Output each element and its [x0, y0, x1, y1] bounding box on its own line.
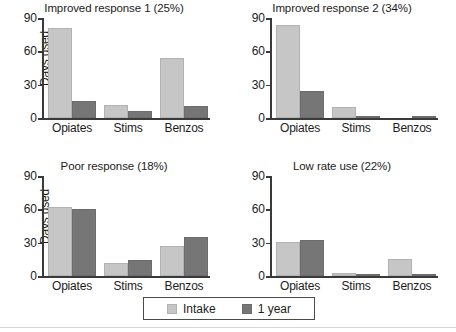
- bar-one-year: [184, 106, 208, 118]
- bar-intake: [160, 246, 184, 276]
- x-category-label: Opiates: [44, 279, 100, 293]
- x-category-label: Stims: [328, 121, 384, 135]
- bar-one-year: [356, 116, 380, 118]
- bar-one-year: [128, 260, 152, 276]
- bar-intake: [160, 58, 184, 118]
- y-tick-label: 30: [252, 237, 265, 249]
- bar-group: Stims: [328, 18, 384, 118]
- y-tick-mark: [38, 118, 42, 120]
- bar-group: Opiates: [44, 18, 100, 118]
- plot-area: Days used 0306090 OpiatesStimsBenzos: [42, 176, 210, 276]
- x-category-label: Opiates: [272, 121, 328, 135]
- x-category-label: Benzos: [156, 279, 212, 293]
- y-tick-mark: [38, 85, 42, 87]
- y-tick-label: 0: [30, 112, 37, 124]
- bar-intake: [276, 242, 300, 276]
- bar-intake: [388, 259, 412, 276]
- x-category-label: Stims: [100, 121, 156, 135]
- bar-group: Opiates: [44, 176, 100, 276]
- x-axis-line: [42, 276, 210, 278]
- y-tick-label: 0: [258, 270, 265, 282]
- x-category-label: Stims: [100, 279, 156, 293]
- y-tick-mark: [266, 176, 270, 178]
- y-tick-mark: [266, 276, 270, 278]
- bar-intake: [332, 273, 356, 276]
- plot-area: Days used 0306090 OpiatesStimsBenzos: [42, 18, 210, 118]
- legend-entry-intake: Intake: [167, 302, 216, 316]
- panel-improved-response-2: Improved response 2 (34%) 0306090 Opiate…: [228, 0, 456, 148]
- legend-swatch-intake-icon: [167, 304, 177, 314]
- y-tick-mark: [266, 85, 270, 87]
- chart-legend: Intake 1 year: [143, 297, 315, 320]
- bar-intake: [48, 28, 72, 118]
- x-axis-line: [42, 118, 210, 120]
- y-tick-mark: [38, 176, 42, 178]
- y-tick-mark: [266, 51, 270, 53]
- y-tick-label: 60: [24, 203, 37, 215]
- panel-improved-response-1: Improved response 1 (25%) Days used 0306…: [0, 0, 228, 148]
- legend-label-intake: Intake: [183, 302, 216, 316]
- bar-one-year: [412, 116, 436, 118]
- y-tick-label: 0: [30, 270, 37, 282]
- bar-intake: [276, 25, 300, 118]
- y-tick-label: 0: [258, 112, 265, 124]
- x-category-label: Benzos: [384, 279, 440, 293]
- y-tick-mark: [266, 18, 270, 20]
- x-axis-line: [270, 276, 438, 278]
- bar-one-year: [72, 101, 96, 118]
- bar-group: Opiates: [272, 18, 328, 118]
- y-tick-label: 30: [252, 79, 265, 91]
- bar-one-year: [300, 91, 324, 118]
- bar-intake: [332, 107, 356, 118]
- y-tick-mark: [266, 118, 270, 120]
- legend-label-one-year: 1 year: [258, 302, 291, 316]
- plot-area: 0306090 OpiatesStimsBenzos: [270, 176, 438, 276]
- y-tick-mark: [266, 209, 270, 211]
- y-tick-label: 90: [24, 170, 37, 182]
- bottom-divider: [0, 327, 456, 328]
- bar-group: Opiates: [272, 176, 328, 276]
- bar-one-year: [128, 111, 152, 118]
- bar-one-year: [356, 274, 380, 276]
- y-tick-label: 90: [252, 12, 265, 24]
- bar-one-year: [72, 209, 96, 276]
- bar-one-year: [412, 274, 436, 276]
- bar-intake: [104, 105, 128, 118]
- y-tick-label: 60: [252, 45, 265, 57]
- y-tick-mark: [38, 18, 42, 20]
- bar-group: Benzos: [156, 18, 212, 118]
- bar-group: Benzos: [384, 176, 440, 276]
- x-category-label: Opiates: [44, 121, 100, 135]
- x-category-label: Opiates: [272, 279, 328, 293]
- y-tick-mark: [38, 51, 42, 53]
- x-category-label: Benzos: [156, 121, 212, 135]
- bar-group: Benzos: [384, 18, 440, 118]
- y-tick-mark: [266, 243, 270, 245]
- panel-low-rate-use: Low rate use (22%) 0306090 OpiatesStimsB…: [228, 158, 456, 306]
- bar-one-year: [300, 240, 324, 276]
- bar-group: Stims: [328, 176, 384, 276]
- y-tick-label: 60: [24, 45, 37, 57]
- y-tick-label: 60: [252, 203, 265, 215]
- bar-intake: [104, 263, 128, 276]
- y-tick-mark: [38, 276, 42, 278]
- bar-one-year: [184, 237, 208, 276]
- y-tick-label: 30: [24, 79, 37, 91]
- y-tick-mark: [38, 209, 42, 211]
- y-tick-label: 30: [24, 237, 37, 249]
- multi-panel-bar-chart-figure: Improved response 1 (25%) Days used 0306…: [0, 0, 456, 332]
- x-axis-line: [270, 118, 438, 120]
- y-tick-label: 90: [252, 170, 265, 182]
- y-tick-mark: [38, 243, 42, 245]
- panel-poor-response: Poor response (18%) Days used 0306090 Op…: [0, 158, 228, 306]
- plot-area: 0306090 OpiatesStimsBenzos: [270, 18, 438, 118]
- x-category-label: Benzos: [384, 121, 440, 135]
- legend-entry-one-year: 1 year: [242, 302, 291, 316]
- bar-group: Benzos: [156, 176, 212, 276]
- legend-swatch-one-year-icon: [242, 304, 252, 314]
- y-tick-label: 90: [24, 12, 37, 24]
- bar-intake: [48, 207, 72, 276]
- bar-group: Stims: [100, 176, 156, 276]
- x-category-label: Stims: [328, 279, 384, 293]
- bar-group: Stims: [100, 18, 156, 118]
